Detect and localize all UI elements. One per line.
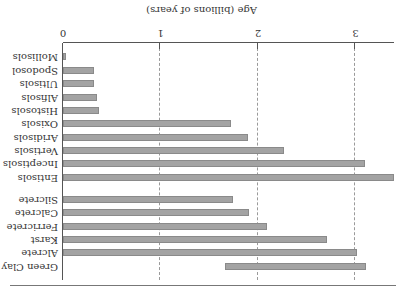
bar-silcrete — [63, 197, 233, 204]
x-axis-line — [63, 42, 394, 43]
x-tick-label: 2 — [248, 28, 268, 39]
bar-calcrete — [63, 210, 249, 217]
x-tick-label: 1 — [151, 28, 171, 39]
category-label: Calcrete — [0, 207, 58, 219]
bar-mollisols — [63, 54, 66, 61]
x-tick — [257, 43, 258, 49]
category-label: Mollisols — [0, 51, 58, 63]
bar-histosols — [63, 108, 99, 115]
category-label: Karst — [0, 234, 58, 246]
category-label: Spodosol — [0, 65, 58, 77]
x-axis-title: Age (billions of years) — [146, 5, 257, 16]
bar-alfisols — [63, 95, 97, 102]
category-label: Ferricrete — [0, 221, 58, 233]
bar-vertisols — [63, 148, 284, 155]
x-tick-label: 3 — [346, 28, 366, 39]
bar-inceptisols — [63, 161, 365, 168]
bar-entisols — [63, 175, 395, 182]
bar-spodosol — [63, 68, 94, 75]
bar-alcrete — [63, 250, 357, 257]
bar-oxisols — [63, 121, 231, 128]
category-label: Entisols — [0, 172, 58, 184]
category-label: Inceptisols — [0, 158, 58, 170]
category-label: Ultisols — [0, 78, 58, 90]
bar-green-clay — [225, 264, 366, 271]
bottom-rule — [10, 285, 396, 286]
x-tick — [62, 43, 63, 49]
category-label: Silcrete — [0, 194, 58, 206]
x-tick — [355, 43, 356, 49]
bar-aridisols — [63, 135, 248, 142]
category-label: Histosols — [0, 105, 58, 117]
chart-stage: Age (billions of years) 0123MollisolsSpo… — [0, 0, 409, 294]
category-label: Vertisols — [0, 145, 58, 157]
category-label: Green Clay — [0, 261, 58, 273]
category-label: Alcrete — [0, 247, 58, 259]
bar-karst — [63, 237, 327, 244]
category-label: Alfisols — [0, 92, 58, 104]
category-label: Aridisols — [0, 132, 58, 144]
x-tick — [160, 43, 161, 49]
x-tick-label: 0 — [53, 28, 73, 39]
bar-ferricrete — [63, 224, 267, 231]
bar-ultisols — [63, 81, 94, 88]
category-label: Oxisols — [0, 118, 58, 130]
